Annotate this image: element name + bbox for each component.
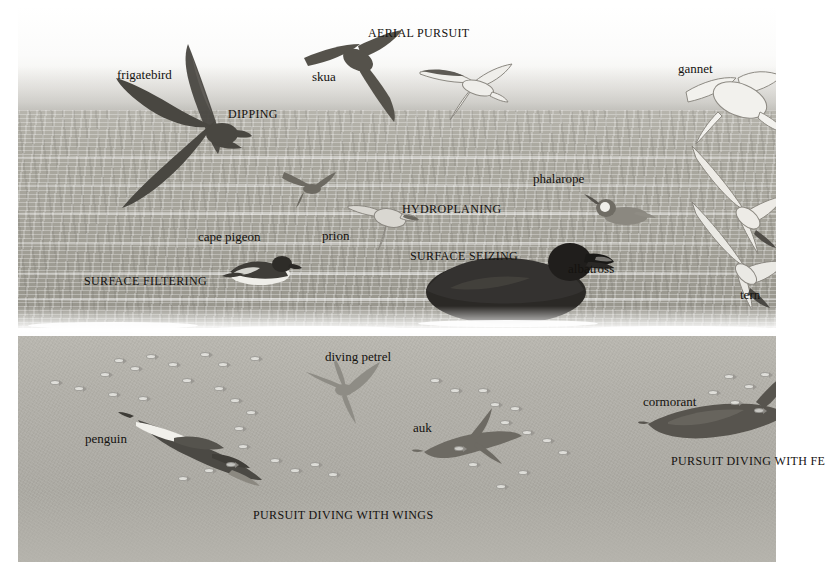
bird-tern-plunging [688, 196, 776, 318]
label-dipping: DIPPING [228, 108, 278, 120]
foam-crest [418, 320, 598, 327]
label-skua: skua [312, 70, 336, 83]
label-cape-pigeon: cape pigeon [198, 230, 260, 243]
bird-frigatebird [92, 30, 292, 215]
label-aerial-pursuit: AERIAL PURSUIT [368, 27, 469, 39]
foam-crest [28, 322, 198, 329]
bird-tern-aerial [416, 58, 520, 136]
label-hydroplaning: HYDROPLANING [402, 203, 502, 215]
bird-phalarope [584, 190, 658, 230]
label-diving-petrel: diving petrel [325, 350, 391, 363]
foam-crest [578, 326, 776, 333]
label-penguin: penguin [85, 432, 127, 445]
swell-line [18, 298, 776, 301]
label-pursuit-diving-with-wings: PURSUIT DIVING WITH WINGS [253, 509, 433, 521]
label-surface-filtering: SURFACE FILTERING [84, 275, 207, 287]
label-pursuit-diving-with-feet: PURSUIT DIVING WITH FE [671, 455, 825, 467]
label-gannet: gannet [678, 62, 713, 75]
bird-diving-petrel [302, 354, 388, 426]
foam-crest [208, 326, 408, 333]
label-albatross: albatross [568, 262, 614, 275]
label-auk: auk [413, 421, 432, 434]
label-cormorant: cormorant [643, 395, 696, 408]
label-tern: tern [740, 288, 760, 301]
label-surface-seizing: SURFACE SEIZING [410, 250, 518, 262]
label-prion: prion [322, 229, 349, 242]
label-frigatebird: frigatebird [117, 68, 172, 81]
depth-fade [18, 492, 776, 562]
label-phalarope: phalarope [533, 172, 584, 185]
bird-cape-pigeon [214, 250, 306, 290]
bird-storm-petrel [274, 164, 340, 210]
